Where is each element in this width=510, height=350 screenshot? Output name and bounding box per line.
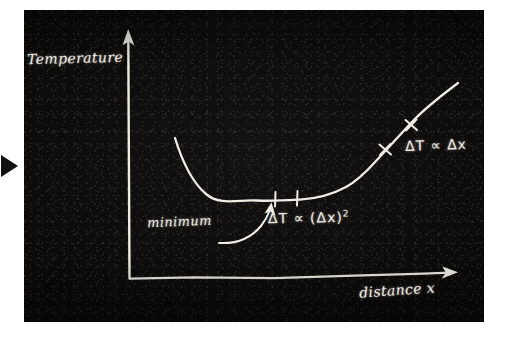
y-axis [123, 29, 135, 279]
x-axis [130, 266, 458, 278]
quadratic-region-ticks [275, 191, 298, 207]
quadratic-scaling-annotation: ΔT ∝ (Δx)2 [268, 208, 350, 226]
figure-page: Temperature distance x minimum ΔT ∝ (Δx)… [0, 0, 510, 350]
minimum-annotation-label: minimum [147, 213, 212, 230]
quadratic-formula-exponent: 2 [343, 208, 350, 218]
y-axis-label: Temperature [27, 49, 124, 68]
linear-scaling-annotation: ΔT ∝ Δx [405, 136, 467, 154]
minimum-pointer-arrow [219, 202, 275, 243]
quadratic-formula-base: ΔT ∝ (Δx) [268, 209, 343, 226]
right-pointing-triangle-icon [1, 155, 18, 177]
